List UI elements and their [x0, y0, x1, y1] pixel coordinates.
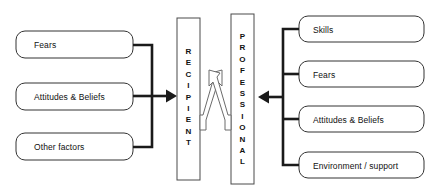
left-box-attitudes-beliefs-label: Attitudes & Beliefs	[34, 92, 105, 102]
stacked-letter: T	[177, 137, 200, 148]
stacked-letter: I	[177, 103, 200, 114]
stacked-letter: N	[177, 126, 200, 137]
stacked-letter: R	[177, 46, 200, 57]
right-arrowhead-icon	[258, 91, 269, 104]
left-box-other-factors-label: Other factors	[34, 142, 84, 152]
diagram-canvas: Fears Attitudes & Beliefs Other factors …	[0, 0, 436, 196]
stacked-letter: L	[231, 156, 254, 167]
stacked-letter: R	[231, 42, 254, 53]
stacked-letter: O	[231, 122, 254, 133]
left-box-fears-label: Fears	[34, 40, 56, 50]
stacked-letter: C	[177, 69, 200, 80]
stacked-letter: A	[231, 145, 254, 156]
stacked-letter: F	[231, 65, 254, 76]
stacked-letter: S	[231, 88, 254, 99]
stacked-letter: P	[177, 92, 200, 103]
right-box-fears-label: Fears	[313, 70, 335, 80]
right-bracket	[283, 29, 299, 165]
left-arrowhead-icon	[166, 90, 177, 103]
recipient-label: RECIPIENT	[177, 46, 200, 149]
stacked-letter: P	[231, 31, 254, 42]
professional-label: PROFESSIONAL	[231, 31, 254, 168]
stacked-letter: E	[177, 57, 200, 68]
stacked-letter: S	[231, 99, 254, 110]
right-box-skills-label: Skills	[313, 25, 333, 35]
stacked-letter: I	[177, 80, 200, 91]
stacked-letter: E	[177, 114, 200, 125]
right-box-attitudes-beliefs-label: Attitudes & Beliefs	[313, 115, 384, 125]
stacked-letter: O	[231, 54, 254, 65]
stacked-letter: N	[231, 134, 254, 145]
stacked-letter: E	[231, 77, 254, 88]
stacked-letter: I	[231, 111, 254, 122]
right-box-environment-support-label: Environment / support	[313, 161, 398, 171]
